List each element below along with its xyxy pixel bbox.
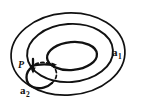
middle-ellipse	[25, 21, 115, 85]
loop-a2-label: a2	[20, 85, 30, 98]
loop-a1-label-subscript: 1	[118, 52, 122, 61]
loop-a1-label: a1	[112, 47, 122, 60]
loop-a2-solid-arc	[27, 67, 53, 88]
topology-figure: P a1 a2	[0, 0, 144, 108]
loop-a2-label-base: a	[20, 84, 26, 96]
loop-a2-label-subscript: 2	[26, 90, 30, 99]
base-point-label: P	[18, 60, 24, 70]
loop-a1-label-base: a	[112, 46, 118, 58]
loop-a2-chord	[31, 64, 54, 66]
